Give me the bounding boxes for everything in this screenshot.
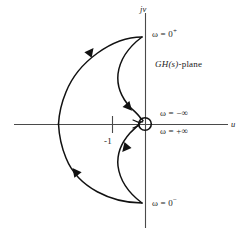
annotation-omega-pos-infinity: ω = +∞ [160,127,188,136]
annotation-omega-zero-plus-text: ω = 0 [152,29,173,39]
tick-label-minus-one: -1 [104,137,112,146]
annotation-omega-zero-minus: ω = 0− [152,199,177,208]
figure-canvas: jv u ω = 0+ GH(s)-plane ω = −∞ ω = +∞ ω … [0,0,246,236]
annotation-omega-zero-minus-sup: − [173,196,177,204]
axis-label-u: u [231,120,235,129]
inner-curve-lower [118,122,142,203]
stub-left-a [133,120,139,123]
plane-label-suffix: -plane [179,59,203,69]
annotation-omega-zero-plus-sup: + [173,27,177,35]
plane-label-italic-part: GH(s) [155,59,179,69]
arrow-upper-inner-icon [123,101,136,114]
axis-label-jv: jv [140,5,147,14]
outer-arc-upper [59,37,143,124]
annotation-omega-zero-plus: ω = 0+ [152,30,177,39]
arrow-upper-outer-icon [84,45,97,58]
plane-label: GH(s)-plane [155,60,202,69]
annotation-omega-zero-minus-text: ω = 0 [152,198,173,208]
annotation-omega-neg-infinity: ω = −∞ [160,109,188,118]
nyquist-diagram-svg [0,0,246,236]
